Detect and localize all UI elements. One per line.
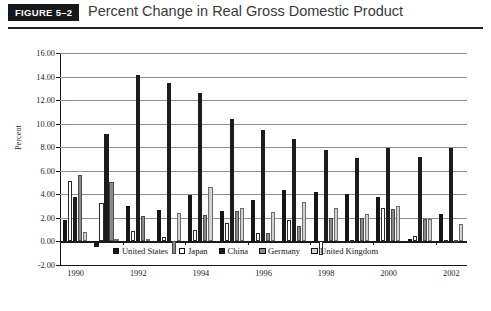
bar-united-kingdom-1990 bbox=[83, 232, 87, 241]
bar-japan-1995 bbox=[225, 223, 229, 242]
y-axis-tick-label: 4.00 bbox=[0, 190, 55, 199]
legend-label: China bbox=[228, 246, 249, 256]
gridline bbox=[60, 100, 467, 101]
y-axis-tick-mark bbox=[56, 100, 60, 101]
bar-japan-1990 bbox=[68, 181, 72, 242]
bar-japan-1991 bbox=[99, 203, 103, 241]
legend-item-united-kingdom[interactable]: United Kingdom bbox=[311, 246, 378, 256]
bar-united-states-1998 bbox=[314, 192, 318, 241]
bar-united-kingdom-1994 bbox=[208, 187, 212, 242]
legend-swatch-icon bbox=[179, 248, 186, 255]
y-axis-tick-mark bbox=[56, 147, 60, 148]
figure-number-badge: FIGURE 5–2 bbox=[8, 4, 79, 21]
figure-header: FIGURE 5–2 Percent Change in Real Gross … bbox=[0, 0, 491, 30]
x-axis-tick-mark bbox=[248, 241, 249, 245]
figure-title: Percent Change in Real Gross Domestic Pr… bbox=[88, 3, 403, 19]
legend-swatch-icon bbox=[113, 248, 120, 255]
bar-united-kingdom-2000 bbox=[396, 206, 400, 241]
y-axis-tick-mark bbox=[56, 194, 60, 195]
y-axis-tick-label: 12.00 bbox=[0, 96, 55, 105]
bar-china-2002 bbox=[449, 148, 453, 241]
bar-japan-1996 bbox=[256, 233, 260, 241]
bar-united-states-2000 bbox=[376, 197, 380, 241]
legend-item-germany[interactable]: Germany bbox=[259, 246, 300, 256]
bar-united-kingdom-1991 bbox=[114, 239, 118, 241]
x-axis-tick-mark bbox=[123, 241, 124, 245]
figure-page: FIGURE 5–2 Percent Change in Real Gross … bbox=[0, 0, 491, 311]
bar-united-states-2001 bbox=[408, 239, 412, 242]
legend-item-united-states[interactable]: United States bbox=[113, 246, 168, 256]
plot-area: 16.0014.0012.0010.008.006.004.002.000.00… bbox=[60, 53, 467, 265]
bar-germany-1991 bbox=[109, 182, 113, 241]
bar-germany-1990 bbox=[78, 175, 82, 242]
bar-united-kingdom-1995 bbox=[240, 208, 244, 242]
legend-label: Germany bbox=[268, 246, 300, 256]
legend-label: Japan bbox=[188, 246, 208, 256]
x-axis-tick-label: 2000 bbox=[380, 269, 397, 278]
x-axis-line bbox=[60, 265, 467, 266]
bar-china-1993 bbox=[167, 83, 171, 241]
bar-united-states-1995 bbox=[220, 211, 224, 242]
bar-germany-2000 bbox=[391, 209, 395, 241]
bar-japan-1999 bbox=[350, 240, 354, 242]
y-axis-tick-mark bbox=[56, 218, 60, 219]
y-axis-tick-mark bbox=[56, 53, 60, 54]
bar-china-2000 bbox=[386, 148, 390, 241]
legend-swatch-icon bbox=[219, 248, 226, 255]
x-axis-tick-mark bbox=[310, 241, 311, 245]
bar-germany-2001 bbox=[423, 219, 427, 241]
y-axis-tick-label: -2.00 bbox=[0, 261, 55, 270]
bar-china-1996 bbox=[261, 130, 265, 242]
y-axis-tick-label: 14.00 bbox=[0, 72, 55, 81]
x-axis-tick-mark bbox=[436, 241, 437, 245]
bar-germany-2002 bbox=[454, 240, 458, 242]
gridline bbox=[60, 77, 467, 78]
bar-united-states-1999 bbox=[345, 194, 349, 241]
legend-item-japan[interactable]: Japan bbox=[179, 246, 208, 256]
x-axis-tick-mark bbox=[60, 241, 61, 245]
bar-germany-1998 bbox=[329, 218, 333, 241]
bar-germany-1999 bbox=[360, 218, 364, 241]
y-axis-tick-label: 10.00 bbox=[0, 119, 55, 128]
bar-japan-1993 bbox=[162, 237, 166, 242]
legend-label: United States bbox=[122, 246, 168, 256]
bar-china-1991 bbox=[104, 134, 108, 242]
legend-swatch-icon bbox=[311, 248, 318, 255]
y-axis-tick-mark bbox=[56, 77, 60, 78]
bar-united-kingdom-1992 bbox=[146, 239, 150, 241]
y-axis-line bbox=[60, 53, 61, 265]
bar-china-1992 bbox=[136, 75, 140, 241]
bar-united-kingdom-1993 bbox=[177, 213, 181, 242]
y-axis-tick-mark bbox=[56, 124, 60, 125]
bar-china-1999 bbox=[355, 158, 359, 241]
bar-united-states-1997 bbox=[282, 190, 286, 241]
bar-united-states-1996 bbox=[251, 200, 255, 241]
x-axis-tick-label: 1996 bbox=[255, 269, 272, 278]
bar-united-kingdom-1997 bbox=[302, 202, 306, 241]
bar-japan-1992 bbox=[131, 231, 135, 242]
bar-germany-1995 bbox=[235, 211, 239, 242]
bar-united-kingdom-2001 bbox=[428, 219, 432, 241]
bar-china-2001 bbox=[418, 157, 422, 242]
legend-item-china[interactable]: China bbox=[219, 246, 249, 256]
gridline bbox=[60, 53, 467, 54]
bar-china-1995 bbox=[230, 119, 234, 241]
y-axis-tick-label: 8.00 bbox=[0, 143, 55, 152]
bar-united-kingdom-1999 bbox=[365, 214, 369, 241]
bar-japan-2000 bbox=[381, 208, 385, 241]
bar-china-1997 bbox=[292, 139, 296, 241]
bar-germany-1992 bbox=[141, 216, 145, 242]
x-axis-tick-label: 1992 bbox=[130, 269, 147, 278]
bar-china-1990 bbox=[73, 197, 77, 242]
bar-japan-2001 bbox=[413, 236, 417, 242]
x-axis-tick-mark bbox=[373, 241, 374, 245]
x-axis-tick-label: 1998 bbox=[318, 269, 335, 278]
gridline bbox=[60, 124, 467, 125]
y-axis-tick-label: 2.00 bbox=[0, 213, 55, 222]
chart-legend: United StatesJapanChinaGermanyUnited Kin… bbox=[0, 246, 491, 256]
y-axis-tick-label: 16.00 bbox=[0, 49, 55, 58]
bar-united-kingdom-1998 bbox=[334, 208, 338, 241]
bar-chart: Percent 16.0014.0012.0010.008.006.004.00… bbox=[0, 32, 491, 311]
x-axis-tick-label: 2002 bbox=[443, 269, 460, 278]
bar-united-states-1992 bbox=[126, 206, 130, 242]
